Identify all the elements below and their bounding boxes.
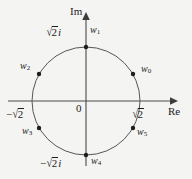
radical-right: √2 — [132, 108, 144, 120]
tick-label-bottom: −√2i — [40, 157, 61, 169]
tick-label-right: √2 — [132, 108, 144, 120]
point-label-w4: w4 — [91, 156, 101, 167]
radical-top: √2 — [46, 26, 58, 38]
point-marker-w1 — [84, 45, 88, 49]
point-label-w5-subscript: 5 — [144, 130, 148, 138]
radicand-left: 2 — [18, 108, 25, 120]
surd-glyph-right: √ — [132, 108, 138, 120]
point-label-w0-name: w — [141, 63, 148, 74]
point-label-w4-name: w — [91, 155, 98, 166]
point-marker-w5 — [131, 126, 135, 130]
point-marker-w2 — [37, 72, 41, 76]
point-label-w4-subscript: 4 — [98, 159, 102, 167]
point-label-w1-name: w — [90, 24, 97, 35]
surd-glyph-left: √ — [13, 108, 19, 120]
point-label-w1-subscript: 1 — [97, 28, 101, 36]
surd-glyph-bottom: √ — [47, 157, 53, 169]
imaginary-axis-label: Im — [70, 6, 82, 17]
point-label-w5: w5 — [137, 127, 147, 138]
point-marker-w3 — [37, 126, 41, 130]
radicand-bottom: 2 — [52, 157, 59, 169]
tick-label-left: −√2 — [6, 108, 24, 120]
point-label-w3-subscript: 3 — [29, 129, 33, 137]
real-axis-arrowhead — [170, 97, 178, 105]
point-label-w3: w3 — [22, 126, 32, 137]
origin-label: 0 — [76, 103, 82, 114]
point-label-w3-name: w — [22, 125, 29, 136]
point-label-w5-name: w — [137, 126, 144, 137]
imaginary-axis-arrowhead — [82, 12, 90, 20]
complex-plane-figure: Im Re 0 √2i −√2i √2 −√2 w0 w1 w2 w3 w4 w… — [0, 0, 192, 179]
imaginary-unit-top: i — [58, 26, 61, 38]
radicand-right: 2 — [138, 108, 145, 120]
radicand-top: 2 — [52, 26, 59, 38]
radical-bottom: √2 — [46, 157, 58, 169]
imaginary-unit-bottom: i — [58, 157, 61, 169]
point-label-w0: w0 — [141, 64, 151, 75]
point-label-w2-subscript: 2 — [27, 64, 31, 72]
real-axis-label: Re — [168, 106, 180, 117]
surd-glyph-top: √ — [46, 26, 52, 38]
point-marker-w4 — [84, 153, 88, 157]
tick-label-top: √2i — [46, 26, 61, 38]
point-label-w1: w1 — [90, 25, 100, 36]
point-label-w0-subscript: 0 — [148, 67, 152, 75]
point-label-w2-name: w — [20, 60, 27, 71]
point-label-w2: w2 — [20, 61, 30, 72]
point-marker-w0 — [131, 72, 135, 76]
radical-left: √2 — [12, 108, 24, 120]
